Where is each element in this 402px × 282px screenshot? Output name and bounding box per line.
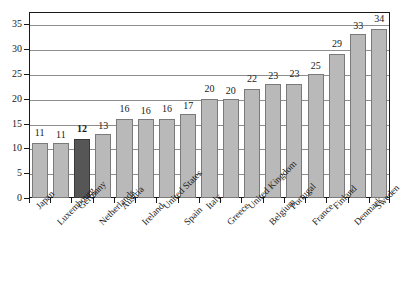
bar-value-label-ireland: 16 — [135, 106, 156, 116]
bar-luxembourg[interactable] — [53, 143, 69, 198]
y-tick-label-10: 10 — [12, 143, 22, 153]
y-tick-label-20: 20 — [12, 94, 22, 104]
bar-slot: 20 — [220, 12, 241, 198]
bar-slot: 22 — [241, 12, 262, 198]
bar-value-label-united-kingdom: 22 — [241, 74, 262, 84]
bar-italy[interactable] — [201, 99, 217, 198]
bar-value-label-belgium: 23 — [263, 71, 284, 81]
x-axis-labels: JapanLuxembourgGermanyNetherlandsAustria… — [0, 198, 402, 282]
bar-japan[interactable] — [32, 143, 48, 198]
bar-portugal[interactable] — [286, 84, 302, 198]
bar-slot: 16 — [156, 12, 177, 198]
bar-value-label-spain: 17 — [178, 101, 199, 111]
bar-value-label-netherlands: 13 — [93, 121, 114, 131]
bar-value-label-portugal: 23 — [284, 69, 305, 79]
bar-slot: 16 — [135, 12, 156, 198]
x-label-spain: Spain — [182, 205, 204, 227]
y-tick-label-35: 35 — [12, 19, 22, 29]
bar-slot: 29 — [326, 12, 347, 198]
bar-value-label-luxembourg: 11 — [50, 130, 71, 140]
bar-slot: 25 — [305, 12, 326, 198]
bar-value-label-greece: 20 — [220, 86, 241, 96]
bar-value-label-japan: 11 — [29, 128, 50, 138]
bar-denmark[interactable] — [350, 34, 366, 198]
bar-slot: 16 — [114, 12, 135, 198]
bar-sweden[interactable] — [371, 29, 387, 198]
bar-austria[interactable] — [116, 119, 132, 198]
bar-slot: 13 — [93, 12, 114, 198]
bar-value-label-france: 25 — [305, 61, 326, 71]
y-tick-label-30: 30 — [12, 44, 22, 54]
bar-united-kingdom[interactable] — [244, 89, 260, 198]
y-tick-label-15: 15 — [12, 119, 22, 129]
bar-slot: 20 — [199, 12, 220, 198]
bar-value-label-finland: 29 — [326, 39, 347, 49]
bar-slot: 11 — [50, 12, 71, 198]
bar-slot: 11 — [29, 12, 50, 198]
bar-value-label-denmark: 33 — [348, 21, 369, 31]
x-label-france: France — [310, 202, 335, 227]
bar-value-label-germany: 12 — [71, 124, 92, 134]
bar-value-label-sweden: 34 — [369, 14, 390, 24]
bars-layer: 1111121316161617202022232325293334 — [29, 12, 390, 198]
bar-value-label-united-states: 16 — [156, 104, 177, 114]
y-tick-label-5: 5 — [17, 168, 22, 178]
bar-slot: 12 — [71, 12, 92, 198]
bar-greece[interactable] — [223, 99, 239, 198]
bar-slot: 33 — [348, 12, 369, 198]
bar-value-label-austria: 16 — [114, 104, 135, 114]
bar-slot: 34 — [369, 12, 390, 198]
y-tick-label-25: 25 — [12, 69, 22, 79]
bar-chart: 05101520253035 1111121316161617202022232… — [0, 0, 402, 282]
bar-united-states[interactable] — [159, 119, 175, 198]
bar-value-label-italy: 20 — [199, 84, 220, 94]
bar-finland[interactable] — [329, 54, 345, 198]
bar-france[interactable] — [308, 74, 324, 198]
